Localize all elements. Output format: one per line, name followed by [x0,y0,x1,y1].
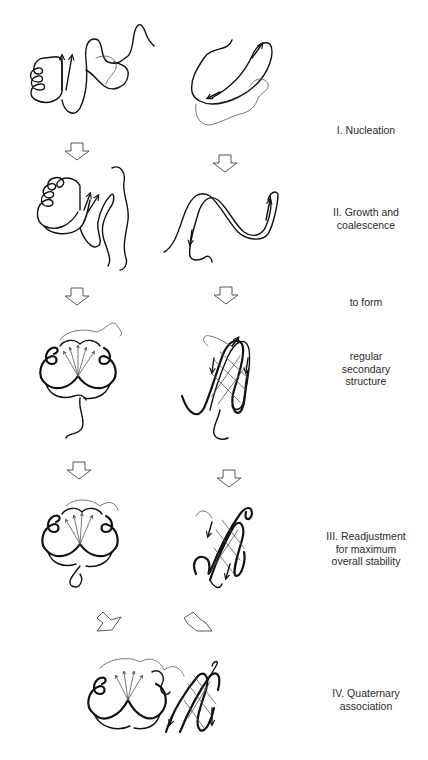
stage-label-readjustment: III. Readjustment for maximum overall st… [314,530,418,568]
stage3-right-chain [182,336,250,440]
stage3-left-chain [40,323,121,438]
stage-label-quaternary: IV. Quaternary association [318,687,414,712]
diagonal-arrow-right [184,612,212,631]
down-arrow-right-1 [213,155,237,172]
stage2-left-chain [37,167,128,270]
down-arrow-left-1 [65,143,89,160]
stage-label-growth: II. Growth and coalescence [318,206,414,231]
stage-label-nucleation: I. Nucleation [318,124,414,137]
down-arrow-right-2 [214,287,238,304]
diagonal-arrow-left [97,612,121,631]
stage1-right-chain [192,40,272,125]
stage4-right-chain [194,508,252,587]
stage4-left-chain [42,500,118,587]
stage2-right-chain [164,192,278,262]
quaternary-complex [88,659,219,732]
down-arrow-left-2 [65,288,89,305]
stage1-left-chain [31,25,155,113]
down-arrow-right-3 [217,470,241,487]
stage-label-regular-secondary: regular secondary structure [318,350,414,388]
stage-label-to-form: to form [318,296,414,309]
down-arrow-left-3 [67,462,91,479]
